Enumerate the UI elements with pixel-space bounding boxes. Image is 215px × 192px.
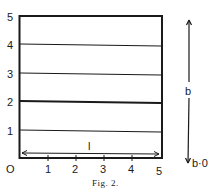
outer-square <box>20 16 163 158</box>
x-label-2: 2 <box>72 163 78 175</box>
y-label-4: 4 <box>7 39 13 51</box>
strip-line-4 <box>20 44 161 46</box>
strip-line-3 <box>20 73 161 75</box>
length-label: l <box>88 140 90 152</box>
y-label-1: 1 <box>7 125 13 137</box>
x-label-1: 1 <box>45 163 51 175</box>
breadth-zero-label: b·0 <box>192 157 208 169</box>
y-label-2: 2 <box>7 96 13 108</box>
breadth-arrow-lower <box>188 98 189 163</box>
y-label-5: 5 <box>7 11 13 23</box>
strip-line-1 <box>20 130 161 132</box>
origin-label: O <box>6 163 15 175</box>
figure-diagram: l 5 4 3 2 1 O 1 2 3 4 5 b b·0 Fig. 2. <box>0 0 215 192</box>
x-label-4: 4 <box>128 163 134 175</box>
x-label-3: 3 <box>100 163 106 175</box>
y-label-3: 3 <box>7 68 13 80</box>
x-label-5: 5 <box>156 165 162 177</box>
figure-caption: Fig. 2. <box>92 178 119 188</box>
strip-line-2 <box>20 101 161 103</box>
breadth-label: b <box>185 85 191 97</box>
length-arrow <box>22 153 159 154</box>
